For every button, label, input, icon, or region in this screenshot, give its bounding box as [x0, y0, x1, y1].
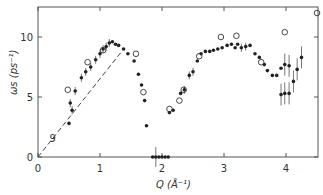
- data-point-open: [65, 87, 71, 93]
- data-point: [220, 46, 224, 50]
- data-point: [283, 92, 287, 96]
- data-point: [114, 42, 118, 46]
- data-point: [212, 48, 216, 52]
- data-point: [140, 83, 144, 87]
- data-point-open: [196, 53, 202, 59]
- data-point: [258, 56, 262, 60]
- data-point: [73, 89, 77, 93]
- data-point: [216, 47, 220, 51]
- data-point: [122, 47, 126, 51]
- axis-tick-labels: 012340510: [20, 32, 289, 174]
- data-point: [283, 63, 287, 67]
- x-tick-label: 4: [283, 163, 289, 174]
- data-point: [126, 52, 130, 56]
- data-point: [248, 44, 252, 48]
- data-point-open: [258, 59, 264, 65]
- data-point: [271, 74, 275, 78]
- data-point: [68, 101, 72, 105]
- data-point: [230, 42, 234, 46]
- data-point-open: [314, 10, 320, 16]
- data-point: [132, 59, 136, 63]
- axis-ticks: [38, 7, 318, 157]
- data-point: [94, 58, 98, 62]
- data-point-open: [234, 33, 240, 39]
- data-point: [233, 46, 237, 50]
- data-point-open: [133, 51, 139, 57]
- data-point: [275, 74, 279, 78]
- data-point: [117, 44, 121, 48]
- data-point: [191, 70, 195, 74]
- plot-frame: [38, 7, 318, 157]
- data-point: [266, 69, 270, 73]
- data-point: [151, 155, 155, 159]
- data-point: [111, 40, 115, 44]
- data-point: [236, 42, 240, 46]
- annotation-label: 9: [50, 133, 56, 144]
- data-point: [204, 50, 208, 54]
- data-point: [244, 45, 248, 49]
- filled-data-series: [67, 39, 303, 167]
- data-point: [108, 41, 112, 45]
- data-point: [208, 50, 212, 54]
- data-point: [279, 93, 283, 97]
- data-point: [253, 52, 257, 56]
- data-point: [240, 46, 244, 50]
- data-point-open: [85, 59, 91, 65]
- data-point: [287, 64, 291, 68]
- data-point: [145, 124, 149, 128]
- y-tick-label: 10: [20, 32, 33, 43]
- data-point: [166, 155, 170, 159]
- data-point: [225, 44, 229, 48]
- x-tick-label: 1: [97, 163, 103, 174]
- data-point: [187, 74, 191, 78]
- data-point: [183, 88, 187, 92]
- data-point: [160, 155, 164, 159]
- annotations: 9: [50, 133, 56, 144]
- data-point: [295, 68, 299, 72]
- data-point: [84, 70, 88, 74]
- data-point-open: [177, 98, 183, 104]
- y-tick-label: 0: [27, 152, 33, 163]
- data-point: [137, 72, 141, 76]
- x-tick-label: 2: [159, 163, 165, 174]
- data-point-open: [141, 89, 147, 95]
- data-point: [279, 66, 283, 70]
- data-point: [196, 59, 200, 63]
- data-point: [287, 92, 291, 96]
- x-tick-label: 0: [35, 163, 41, 174]
- data-point: [292, 80, 296, 84]
- dispersion-chart: 012340510 9 Q (Å⁻¹) ωs (ps⁻¹): [0, 0, 323, 195]
- data-point: [67, 122, 71, 126]
- data-point: [89, 65, 93, 69]
- data-point: [300, 56, 304, 60]
- data-point: [154, 155, 158, 159]
- data-point: [80, 76, 84, 80]
- y-axis-label: ωs (ps⁻¹): [8, 50, 19, 95]
- x-axis-label: Q (Å⁻¹): [156, 178, 191, 190]
- open-data-series: [65, 10, 320, 112]
- data-point: [143, 99, 147, 103]
- data-point-open: [282, 29, 288, 35]
- data-point: [163, 155, 167, 159]
- y-tick-label: 5: [27, 92, 33, 103]
- data-point: [70, 108, 74, 112]
- data-point-open: [218, 34, 224, 40]
- x-tick-label: 3: [221, 163, 227, 174]
- data-point: [157, 155, 161, 159]
